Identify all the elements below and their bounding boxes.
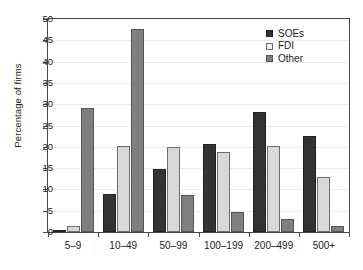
bar-other (181, 195, 194, 232)
bar-fdi (167, 147, 180, 232)
x-axis-tick (349, 233, 350, 237)
x-axis-tick (299, 233, 300, 237)
bar-group (199, 19, 249, 232)
bar-fdi (217, 152, 230, 232)
legend-item: Other (266, 53, 304, 65)
bar-soes (253, 112, 266, 232)
legend-label: FDI (278, 41, 294, 51)
bar-other (131, 29, 144, 232)
bar-soes (303, 136, 316, 232)
bar-group (98, 19, 148, 232)
x-axis-tick (249, 233, 250, 237)
bar-soes (153, 169, 166, 232)
y-axis-label: 25 (13, 121, 53, 131)
bar-fdi (267, 146, 280, 232)
chart-legend: SOEsFDIOther (266, 28, 304, 66)
x-axis-label: 100–199 (199, 240, 249, 251)
legend-label: Other (278, 54, 303, 64)
bar-fdi (117, 146, 130, 232)
bar-other (231, 212, 244, 232)
x-axis-tick (148, 233, 149, 237)
y-axis-label: 50 (13, 14, 53, 24)
x-axis-tick (48, 233, 49, 237)
bar-other (81, 108, 94, 232)
x-axis-tick (199, 233, 200, 237)
bar-chart: Percentage of firms 05101520253035404550… (0, 0, 363, 270)
legend-item: FDI (266, 41, 304, 53)
legend-swatch-soes (266, 30, 273, 37)
bar-fdi (317, 177, 330, 232)
x-axis-label: 5–9 (48, 240, 98, 251)
y-axis-label: 35 (13, 78, 53, 88)
y-axis-label: 0 (13, 227, 53, 237)
legend-label: SOEs (278, 29, 304, 39)
bar-soes (203, 144, 216, 232)
x-axis-label: 200–499 (249, 240, 299, 251)
bar-group (48, 19, 98, 232)
bar-soes (103, 194, 116, 232)
bar-group (148, 19, 198, 232)
y-axis-label: 10 (13, 184, 53, 194)
x-axis-label: 10–49 (98, 240, 148, 251)
legend-item: SOEs (266, 28, 304, 40)
bar-other (331, 226, 344, 232)
x-axis-tick (98, 233, 99, 237)
x-axis-label: 50–99 (148, 240, 198, 251)
bar-fdi (67, 226, 80, 232)
bar-other (281, 219, 294, 232)
bar-group (299, 19, 349, 232)
y-axis-label: 15 (13, 163, 53, 173)
y-axis-label: 40 (13, 57, 53, 67)
y-axis-label: 20 (13, 142, 53, 152)
legend-swatch-other (266, 55, 273, 62)
legend-swatch-fdi (266, 43, 273, 50)
bar-soes (53, 230, 66, 232)
y-axis-label: 30 (13, 99, 53, 109)
y-axis-label: 45 (13, 35, 53, 45)
x-axis-label: 500+ (299, 240, 349, 251)
y-axis-label: 5 (13, 206, 53, 216)
